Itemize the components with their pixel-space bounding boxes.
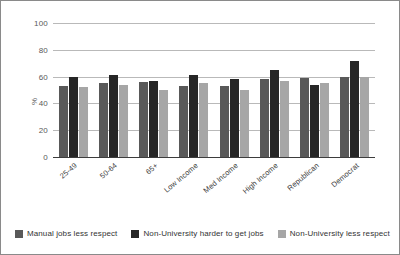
legend-label: Non-University less respect (290, 229, 390, 238)
y-tick-label: 80 (39, 45, 48, 54)
x-tick-label: 25-49 (58, 161, 79, 181)
y-tick-label: 40 (39, 99, 48, 108)
bar[interactable] (270, 70, 279, 157)
bar[interactable] (59, 86, 68, 157)
x-label-cell: Democrat (335, 159, 375, 209)
legend-swatch-icon (278, 230, 286, 238)
x-tick-label: 50-64 (98, 161, 119, 181)
bar[interactable] (109, 75, 118, 157)
bar[interactable] (240, 90, 249, 157)
bar[interactable] (99, 83, 108, 157)
legend-label: Manual jobs less respect (27, 229, 117, 238)
legend-label: Non-University harder to get jobs (143, 229, 263, 238)
bar-group (174, 23, 214, 157)
legend-swatch-icon (15, 230, 23, 238)
x-label-cell: Republican (295, 159, 335, 209)
y-tick-label: 100 (34, 19, 48, 28)
y-tick-label: 0 (43, 153, 48, 162)
legend-item[interactable]: Manual jobs less respect (15, 229, 117, 238)
bar-group (53, 23, 93, 157)
bar[interactable] (159, 90, 168, 157)
bar[interactable] (320, 83, 329, 157)
legend-swatch-icon (131, 230, 139, 238)
legend-item[interactable]: Non-University harder to get jobs (131, 229, 263, 238)
bar[interactable] (149, 81, 158, 157)
bar[interactable] (340, 77, 349, 157)
bar[interactable] (179, 86, 188, 157)
x-label-cell: 25-49 (53, 159, 93, 209)
x-axis-labels: 25-4950-6465+Low IncomeMed IncomeHigh In… (53, 159, 375, 209)
bar-group (134, 23, 174, 157)
bar-group (93, 23, 133, 157)
bar[interactable] (220, 86, 229, 157)
x-label-cell: 50-64 (93, 159, 133, 209)
bar[interactable] (139, 82, 148, 157)
bar[interactable] (300, 78, 309, 157)
bar[interactable] (79, 87, 88, 157)
bar[interactable] (260, 79, 269, 157)
chart-legend: Manual jobs less respectNon-University h… (15, 229, 387, 238)
bar[interactable] (69, 77, 78, 157)
y-tick-label: 20 (39, 126, 48, 135)
bars-layer (53, 23, 375, 157)
legend-item[interactable]: Non-University less respect (278, 229, 390, 238)
bar-group (295, 23, 335, 157)
plot-area: 020406080100 (53, 23, 375, 157)
bar-group (214, 23, 254, 157)
bar[interactable] (350, 61, 359, 157)
bar-group (335, 23, 375, 157)
bar[interactable] (230, 79, 239, 157)
bar[interactable] (360, 77, 369, 157)
x-tick-label: 65+ (144, 161, 160, 176)
bar[interactable] (310, 85, 319, 157)
x-axis-line: 0 (53, 157, 375, 158)
bar[interactable] (119, 85, 128, 157)
y-tick-label: 60 (39, 72, 48, 81)
x-tick-label: Democrat (329, 161, 360, 189)
bar-group (254, 23, 294, 157)
bar[interactable] (199, 83, 208, 157)
bar[interactable] (280, 81, 289, 157)
chart-page: % 020406080100 25-4950-6465+Low IncomeMe… (0, 0, 400, 255)
bar[interactable] (189, 75, 198, 157)
